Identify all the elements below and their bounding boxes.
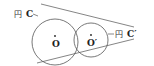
center-o-label: O: [52, 39, 60, 49]
circle-c-name: C: [26, 9, 33, 19]
center-o-prime-dot: [90, 34, 92, 36]
two-circles-diagram: O O′ 円 C 円 C′: [0, 0, 154, 66]
center-o-prime-label: O′: [87, 38, 98, 48]
circle-c-prefix: 円: [14, 10, 22, 19]
circle-c-prime-name: C′: [127, 29, 137, 39]
center-o-dot: [54, 35, 56, 37]
circle-c-prime-prefix: 円: [115, 30, 123, 39]
circle-c-leader-line: [33, 14, 38, 16]
